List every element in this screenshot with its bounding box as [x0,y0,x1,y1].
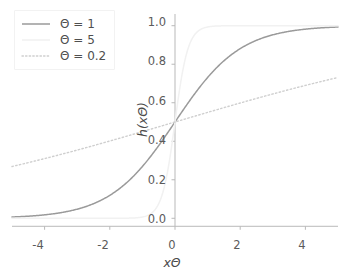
legend-line-dotted-icon [21,50,51,62]
xtick-label-0: 0 [157,238,187,252]
legend-item-theta-0_2: Θ = 0.2 [21,48,106,64]
xtick-label-minus2: -2 [88,238,118,252]
xtick-label-2: 2 [222,238,252,252]
legend-label-theta-1: Θ = 1 [60,17,95,31]
ytick-label-1_0: 1.0 [133,15,166,29]
xtick-label-minus4: -4 [23,238,53,252]
legend-line-faint-icon [21,34,51,46]
ytick-label-0_2: 0.2 [133,173,166,187]
ytick-label-0_0: 0.0 [133,212,166,226]
x-axis-label: xΘ [152,255,192,270]
legend-line-solid-icon [21,18,51,30]
ytick-label-0_8: 0.8 [133,54,166,68]
sigmoid-chart-figure: 1.0 0.8 0.6 0.4 0.2 0.0 -4 -2 0 2 4 xΘ h… [0,0,341,278]
chart-legend: Θ = 1 Θ = 5 Θ = 0.2 [14,10,115,70]
legend-item-theta-1: Θ = 1 [21,16,106,32]
legend-label-theta-0_2: Θ = 0.2 [60,49,106,63]
y-axis-label: h(xΘ) [135,90,150,150]
legend-item-theta-5: Θ = 5 [21,32,106,48]
legend-label-theta-5: Θ = 5 [60,33,95,47]
xtick-label-4: 4 [287,238,317,252]
